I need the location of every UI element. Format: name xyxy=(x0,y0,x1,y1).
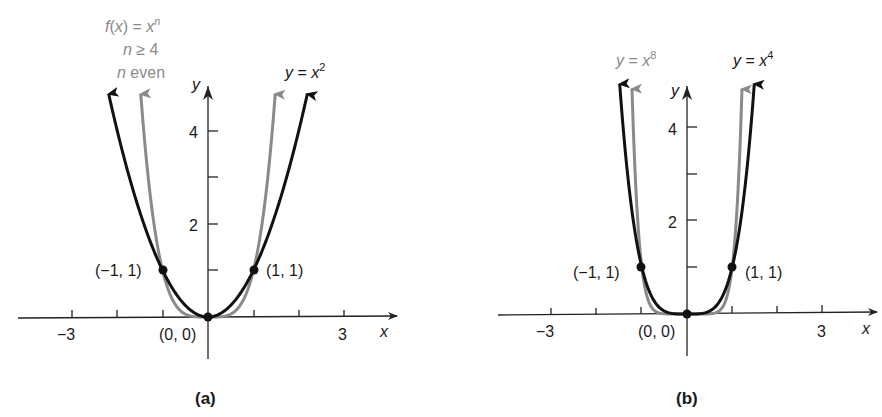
y-ticks xyxy=(208,131,218,270)
point-origin xyxy=(204,313,213,322)
x-tick-label-3: 3 xyxy=(338,326,347,343)
point-label-origin: (0, 0) xyxy=(159,326,196,343)
curve-label-x-squared: y = x2 xyxy=(284,61,325,81)
curve-label-x-to-8: y = x8 xyxy=(615,49,656,69)
point-label-1-1: (1, 1) xyxy=(745,264,782,281)
y-tick-label-2: 2 xyxy=(668,214,677,231)
x-tick-label-3: 3 xyxy=(817,323,826,340)
x-tick-label-neg3: −3 xyxy=(57,326,75,343)
point-origin xyxy=(683,310,692,319)
panel-a: −3 3 2 4 x y (−1, 1) (0, 0) (1, 1) f(x) … xyxy=(18,15,397,408)
family-label-line3: n even xyxy=(117,64,165,81)
family-label-line2: n ≥ 4 xyxy=(123,41,159,58)
panel-b: −3 3 2 4 x y (−1, 1) (0, 0) (1, 1) y = x… xyxy=(498,49,877,408)
point-label-neg1-1: (−1, 1) xyxy=(95,262,142,279)
x-axis-label: x xyxy=(861,320,871,337)
y-tick-label-4: 4 xyxy=(189,124,198,141)
point-label-neg1-1: (−1, 1) xyxy=(573,264,620,281)
point-label-origin: (0, 0) xyxy=(638,323,675,340)
curve-label-x-to-4: y = x4 xyxy=(732,49,773,69)
y-axis-label: y xyxy=(670,82,680,99)
y-tick-label-2: 2 xyxy=(189,217,198,234)
point-label-1-1: (1, 1) xyxy=(266,262,303,279)
x-axis-label: x xyxy=(379,323,389,340)
caption-a: (a) xyxy=(195,389,216,408)
point-neg1-1 xyxy=(637,263,646,272)
point-1-1 xyxy=(728,263,737,272)
y-axis-label: y xyxy=(191,76,201,93)
y-ticks xyxy=(687,127,697,267)
point-1-1 xyxy=(250,266,259,275)
y-tick-label-4: 4 xyxy=(668,121,677,138)
x-tick-label-neg3: −3 xyxy=(536,323,554,340)
figure-canvas: −3 3 2 4 x y (−1, 1) (0, 0) (1, 1) f(x) … xyxy=(0,0,882,417)
point-neg1-1 xyxy=(159,266,168,275)
family-label-line1: f(x) = xn xyxy=(105,15,160,35)
caption-b: (b) xyxy=(676,389,698,408)
